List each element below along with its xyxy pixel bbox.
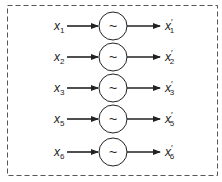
output-label: x′6 bbox=[164, 143, 175, 161]
input-label: x6 bbox=[53, 145, 65, 161]
diagram-canvas: x1 ~ x′1 x2 ~ x′2 x3 ~ x′3 x5 ~ x′5 x6 ~ bbox=[0, 0, 222, 182]
tilde-symbol: ~ bbox=[109, 80, 117, 96]
input-label: x2 bbox=[53, 50, 65, 66]
row: x2 ~ x′2 bbox=[53, 43, 175, 71]
tilde-symbol: ~ bbox=[109, 49, 117, 65]
tilde-symbol: ~ bbox=[109, 18, 117, 34]
row: x6 ~ x′6 bbox=[53, 138, 175, 166]
row: x1 ~ x′1 bbox=[53, 12, 175, 40]
input-label: x1 bbox=[53, 19, 65, 35]
input-label: x5 bbox=[53, 112, 65, 128]
output-label: x′2 bbox=[164, 48, 175, 66]
output-label: x′5 bbox=[164, 110, 175, 128]
row: x5 ~ x′5 bbox=[53, 105, 175, 133]
tilde-symbol: ~ bbox=[109, 144, 117, 160]
input-label: x3 bbox=[53, 81, 65, 97]
tilde-symbol: ~ bbox=[109, 111, 117, 127]
row: x3 ~ x′3 bbox=[53, 74, 175, 102]
output-label: x′3 bbox=[164, 79, 175, 97]
output-label: x′1 bbox=[164, 17, 175, 35]
